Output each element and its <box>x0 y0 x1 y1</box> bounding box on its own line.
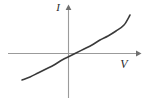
iv-curve-path <box>22 15 130 80</box>
iv-curve <box>22 15 130 80</box>
y-axis-label: I <box>55 1 61 13</box>
x-axis-label: V <box>120 57 129 71</box>
arrow-up-icon <box>66 5 72 11</box>
iv-characteristic-figure: I V <box>0 0 150 104</box>
arrow-right-icon <box>136 51 142 57</box>
plot-canvas: I V <box>0 0 150 104</box>
y-axis <box>66 5 72 99</box>
